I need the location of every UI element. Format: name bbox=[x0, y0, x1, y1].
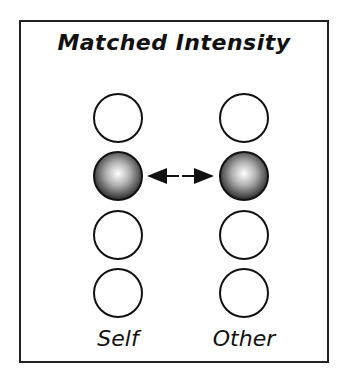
other-circle-4 bbox=[220, 269, 268, 317]
diagram-canvas bbox=[0, 0, 348, 380]
self-label: Self bbox=[68, 326, 168, 351]
other-column bbox=[220, 94, 268, 317]
self-circle-2-filled bbox=[94, 152, 142, 200]
other-circle-3 bbox=[220, 211, 268, 259]
self-circle-1 bbox=[94, 94, 142, 142]
other-circle-1 bbox=[220, 94, 268, 142]
other-circle-2-filled bbox=[220, 152, 268, 200]
self-column bbox=[94, 94, 142, 317]
other-label: Other bbox=[194, 326, 294, 351]
self-circle-3 bbox=[94, 211, 142, 259]
self-circle-4 bbox=[94, 269, 142, 317]
